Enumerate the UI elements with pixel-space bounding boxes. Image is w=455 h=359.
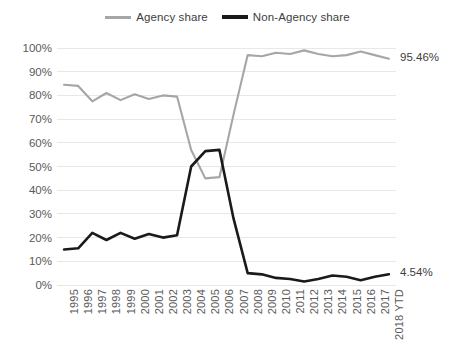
chart-legend: Agency share Non-Agency share (0, 11, 455, 23)
series-lines (57, 48, 396, 285)
x-axis-tick-label: 2010 (280, 289, 292, 314)
series-line (64, 50, 389, 178)
x-axis-tick-label: 2002 (167, 289, 179, 314)
x-axis-tick-label: 1999 (125, 289, 137, 314)
y-axis: 0%10%20%30%40%50%60%70%80%90%100% (0, 48, 52, 285)
legend-item-non-agency-share[interactable]: Non-Agency share (222, 11, 350, 23)
x-axis-tick-label: 2004 (195, 289, 207, 314)
y-axis-tick-label: 80% (0, 89, 52, 101)
y-axis-tick-label: 10% (0, 255, 52, 267)
x-axis-tick-label: 2011 (294, 289, 306, 313)
line-swatch-icon (222, 15, 248, 19)
line-swatch-icon (105, 16, 131, 19)
legend-label-agency-share: Agency share (136, 11, 208, 23)
x-axis-tick-label: 1997 (96, 289, 108, 314)
data-label-non-agency-end: 4.54% (400, 266, 433, 278)
y-axis-tick-label: 60% (0, 137, 52, 149)
x-axis-tick-label: 2001 (153, 289, 165, 314)
y-axis-tick-label: 90% (0, 66, 52, 78)
x-axis-tick-label: 2006 (223, 289, 235, 314)
y-axis-tick-label: 0% (0, 279, 52, 291)
x-axis-tick-label: 2000 (139, 289, 151, 314)
x-axis-tick-label: 2014 (336, 289, 348, 314)
series-line (64, 150, 389, 282)
x-axis-tick-label: 2008 (252, 289, 264, 314)
x-axis-tick-label: 2015 (351, 289, 363, 314)
x-axis-tick-label: 2013 (322, 289, 334, 314)
y-axis-tick-label: 30% (0, 208, 52, 220)
x-axis-tick-label: 2009 (266, 289, 278, 314)
x-axis-tick-label: 1996 (82, 289, 94, 314)
y-axis-tick-label: 100% (0, 42, 52, 54)
legend-item-agency-share[interactable]: Agency share (105, 11, 208, 23)
y-axis-tick-label: 40% (0, 184, 52, 196)
x-axis-tick-label: 2003 (181, 289, 193, 314)
x-axis-tick-label: 1995 (68, 289, 80, 314)
x-axis-tick-label: 2017 (379, 289, 391, 314)
plot-area (57, 48, 396, 285)
x-axis-tick-label: 2007 (238, 289, 250, 314)
x-axis-tick-label: 2012 (308, 289, 320, 314)
y-axis-tick-label: 20% (0, 232, 52, 244)
x-axis-tick-label: 2005 (209, 289, 221, 314)
line-chart: Agency share Non-Agency share 0%10%20%30… (0, 0, 455, 359)
data-label-agency-end: 95.46% (400, 51, 439, 63)
x-axis: 1995199619971998199920002001200220032004… (57, 289, 396, 359)
x-axis-tick-label: 2018 YTD (393, 289, 405, 340)
y-axis-tick-label: 70% (0, 113, 52, 125)
legend-label-non-agency-share: Non-Agency share (253, 11, 350, 23)
x-axis-tick-label: 1998 (110, 289, 122, 314)
x-axis-tick-label: 2016 (365, 289, 377, 314)
y-axis-tick-label: 50% (0, 161, 52, 173)
